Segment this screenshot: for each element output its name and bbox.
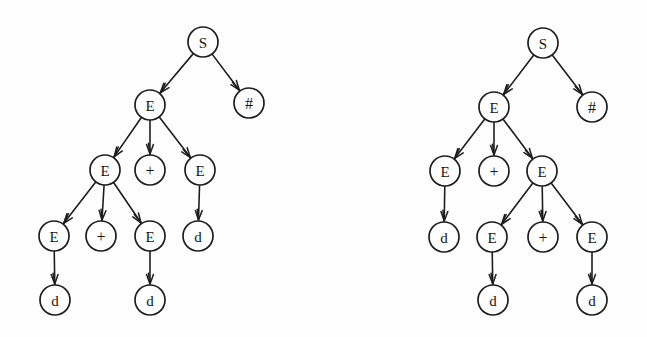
- tree-edge: [147, 252, 154, 285]
- tree-edge: [455, 119, 485, 158]
- tree-edge: [589, 253, 596, 285]
- node-label: d: [588, 293, 596, 309]
- node-label: E: [145, 98, 154, 114]
- node-label: E: [489, 100, 498, 116]
- tree-edge: [539, 186, 546, 221]
- tree-edge: [212, 54, 239, 90]
- node-label: E: [145, 229, 154, 245]
- node-label: #: [245, 95, 253, 112]
- node-label: E: [587, 230, 596, 246]
- tree-node-E[interactable]: E: [527, 156, 557, 186]
- tree-edge: [159, 117, 190, 157]
- tree-edge: [114, 183, 141, 223]
- tree-node-plus[interactable]: +: [135, 155, 165, 185]
- tree-edge: [504, 55, 534, 94]
- node-label: d: [440, 230, 448, 246]
- tree-node-S[interactable]: S: [528, 28, 558, 58]
- tree-edge: [195, 185, 202, 220]
- tree-node-plus[interactable]: +: [86, 221, 116, 251]
- node-label: #: [588, 99, 596, 116]
- tree-edge: [64, 182, 96, 223]
- parse-tree-canvas: SE#E+EE+EdddSE#E+EdE+Edd: [0, 0, 647, 337]
- tree-edge: [491, 123, 498, 156]
- tree-edge: [51, 251, 58, 284]
- node-label: E: [440, 164, 449, 180]
- tree-edge: [147, 121, 154, 155]
- tree-node-plus[interactable]: +: [479, 156, 509, 186]
- node-label: +: [489, 163, 498, 180]
- node-label: d: [51, 293, 59, 309]
- tree-node-E[interactable]: E: [479, 92, 509, 122]
- node-label: +: [538, 229, 547, 246]
- node-label: d: [146, 293, 154, 309]
- edges-layer: [51, 54, 595, 284]
- tree-node-d[interactable]: d: [183, 221, 213, 251]
- node-label: E: [195, 163, 204, 179]
- node-label: E: [487, 230, 496, 246]
- node-label: S: [539, 36, 547, 52]
- tree-node-d[interactable]: d: [429, 222, 459, 252]
- tree-node-d[interactable]: d: [40, 285, 70, 315]
- tree-edge: [551, 183, 582, 224]
- tree-node-E[interactable]: E: [577, 222, 607, 252]
- tree-edge: [489, 252, 496, 284]
- tree-node-E[interactable]: E: [185, 155, 215, 185]
- tree-node-d[interactable]: d: [478, 285, 508, 315]
- tree-node-E[interactable]: E: [90, 155, 120, 185]
- tree-edge: [160, 54, 193, 93]
- node-label: d: [489, 293, 497, 309]
- tree-node-E[interactable]: E: [135, 90, 165, 120]
- node-label: S: [199, 35, 207, 51]
- tree-node-E[interactable]: E: [135, 221, 165, 251]
- tree-node-S[interactable]: S: [188, 27, 218, 57]
- tree-node-plus[interactable]: +: [528, 222, 558, 252]
- tree-edge: [503, 119, 532, 158]
- tree-node-E[interactable]: E: [39, 221, 69, 251]
- tree-edge: [552, 55, 582, 94]
- node-label: +: [145, 162, 154, 179]
- node-label: E: [49, 229, 58, 245]
- tree-node-hash[interactable]: #: [577, 92, 607, 122]
- tree-edge: [502, 183, 533, 224]
- parse-tree-figure: SE#E+EE+EdddSE#E+EdE+Edd: [0, 0, 647, 337]
- node-label: +: [96, 228, 105, 245]
- tree-node-E[interactable]: E: [477, 222, 507, 252]
- tree-node-E[interactable]: E: [430, 156, 460, 186]
- tree-node-hash[interactable]: #: [234, 88, 264, 118]
- tree-edge: [441, 186, 448, 221]
- tree-node-d[interactable]: d: [577, 285, 607, 315]
- node-label: E: [537, 164, 546, 180]
- node-label: E: [100, 163, 109, 179]
- tree-edge: [99, 185, 106, 220]
- tree-node-d[interactable]: d: [135, 285, 165, 315]
- tree-edge: [114, 118, 141, 157]
- node-label: d: [194, 229, 202, 245]
